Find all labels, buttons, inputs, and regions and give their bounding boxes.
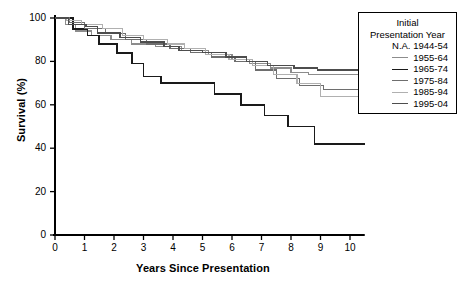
legend-entry-label: 1985-94	[413, 86, 448, 98]
legend-entry-label: 1955-64	[413, 52, 448, 64]
legend-line-swatch-icon	[392, 98, 408, 109]
legend-title-line-2: Presentation Year	[363, 29, 452, 41]
legend-entry-label: 1975-84	[413, 75, 448, 87]
legend-entry-label: 1965-74	[413, 63, 448, 75]
legend-entries: N.A. 1944-541955-641965-741975-841985-94…	[363, 40, 452, 109]
legend-entry-label: N.A. 1944-54	[392, 40, 448, 52]
legend-title-line-1: Initial	[363, 17, 452, 29]
legend-entry-label: 1995-04	[413, 98, 448, 110]
legend: Initial Presentation Year N.A. 1944-5419…	[358, 12, 457, 114]
survival-chart-figure: Survival (%) 020406080100 012345678910 Y…	[0, 0, 460, 287]
legend-line-swatch-icon	[392, 52, 408, 63]
axis-lines	[53, 15, 365, 235]
survival-curve-1965-74	[55, 18, 365, 144]
legend-entry: 1955-64	[363, 52, 452, 64]
legend-line-swatch-icon	[392, 86, 408, 97]
legend-line-swatch-icon	[392, 75, 408, 86]
legend-line-swatch-icon	[392, 63, 408, 74]
legend-entry: 1985-94	[363, 86, 452, 98]
legend-entry: 1995-04	[363, 98, 452, 110]
survival-curve-1955-64	[55, 18, 365, 74]
legend-entry: 1975-84	[363, 75, 452, 87]
survival-curve-1975-84	[55, 18, 365, 90]
legend-entry: 1965-74	[363, 63, 452, 75]
legend-entry: N.A. 1944-54	[363, 40, 452, 52]
survival-curves	[55, 18, 365, 144]
survival-curve-1985-94	[55, 18, 365, 96]
tick-marks	[50, 18, 350, 240]
